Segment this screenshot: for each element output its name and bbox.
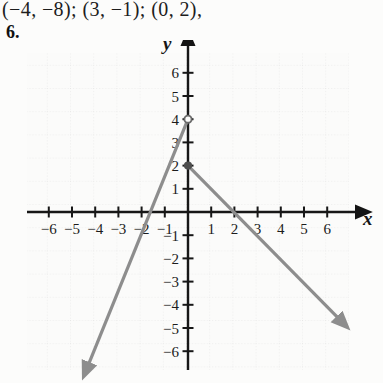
x-axis-label: x [362,208,373,229]
y-tick-label: 4 [172,112,180,128]
coordinate-graph: −6−5−4−3−2−1123456654321−1−2−3−4−5−6 y x [0,40,383,383]
x-tick-label: −5 [64,221,80,237]
x-tick-label: 5 [300,221,308,237]
answer-line-text: (−4, −8); (3, −1); (0, 2), [2,0,202,21]
vertex-open-point [184,116,191,123]
x-tick-label: 6 [323,221,331,237]
y-tick-label: 5 [172,89,180,105]
x-tick-label: 2 [231,221,239,237]
y-tick-label: 1 [172,181,180,197]
x-tick-label: −4 [87,221,103,237]
x-tick-label: −3 [110,221,126,237]
y-tick-label: −6 [163,344,179,360]
y-tick-label: −5 [163,321,179,337]
y-axis-label: y [161,40,172,54]
worksheet-page: (−4, −8); (3, −1); (0, 2), 6. [0,0,383,383]
x-tick-label: 1 [207,221,215,237]
graph-canvas: −6−5−4−3−2−1123456654321−1−2−3−4−5−6 y x [0,40,383,383]
x-tick-label: −6 [41,221,57,237]
y-tick-label: −4 [163,297,179,313]
y-tick-label: 6 [172,65,180,81]
y-tick-label: −3 [163,274,179,290]
filled-point [184,162,192,170]
x-tick-label: 4 [277,221,285,237]
y-tick-label: −1 [163,228,179,244]
y-tick-label: −2 [163,251,179,267]
